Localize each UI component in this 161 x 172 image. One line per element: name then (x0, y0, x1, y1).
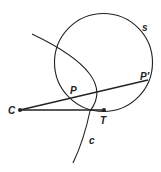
point-T (102, 108, 106, 112)
geometry-figure: s P′ P C T c (0, 0, 161, 172)
arc-c (32, 34, 97, 163)
label-C: C (8, 105, 16, 116)
diagram: s P′ P C T c (0, 0, 161, 172)
point-C (18, 108, 22, 112)
label-P-prime: P′ (140, 71, 150, 82)
label-c: c (89, 135, 95, 146)
label-P: P (70, 85, 77, 96)
label-T: T (100, 115, 107, 126)
circle-s (55, 14, 153, 112)
label-s: s (142, 22, 148, 33)
line-CP-prime (20, 80, 148, 110)
